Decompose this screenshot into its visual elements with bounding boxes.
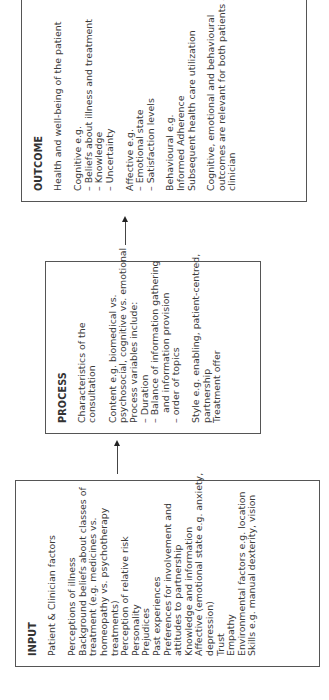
input-box: INPUT Patient & Clinician factors Percep…: [15, 480, 320, 667]
process-content: Content e.g. biomedical vs. psychosocial…: [108, 270, 182, 423]
process-box: PROCESS Characteristics of the consultat…: [45, 261, 261, 434]
diagram-canvas: INPUT Patient & Clinician factors Percep…: [0, 0, 329, 700]
arrow-process-to-outcome: [125, 218, 126, 245]
process-content-line: Process variables include:: [129, 270, 140, 423]
outcome-note-line: clinician: [227, 1, 238, 191]
outcome-behavioural-line: Subsequent health care utilization: [187, 1, 198, 191]
outcome-cognitive-line: – Uncertainty: [105, 1, 116, 191]
outcome-note: Cognitive, emotional and behavioural out…: [206, 1, 238, 191]
outcome-affective-line: – Satisfaction levels: [146, 1, 157, 191]
process-subtitle: Characteristics of the consultation: [77, 270, 98, 423]
process-content-line: – order of topics: [171, 270, 182, 423]
input-subtitle: Patient & Clinician factors: [47, 489, 58, 656]
input-factor: depression): [205, 489, 216, 656]
outcome-cognitive: Cognitive e.g. – Beliefs about illness a…: [73, 1, 115, 191]
outcome-box: OUTCOME Health and well-being of the pat…: [21, 0, 307, 202]
input-factor: homeopathy vs. psychotherapy: [99, 489, 110, 656]
outcome-subtitle: Health and well-being of the patient: [53, 1, 64, 191]
input-factor: Skills e.g. manual dexterity, vision: [247, 489, 258, 656]
outcome-behavioural: Behavioural e.g. Informed Adherence Subs…: [165, 1, 197, 191]
input-factor: Past experiences: [152, 489, 163, 656]
outcome-title: OUTCOME: [34, 1, 45, 191]
process-style-line: Treatment offer: [212, 270, 223, 423]
process-style: Style e.g. enabling, patient-centred, pa…: [191, 270, 223, 423]
arrow-input-to-process: [117, 442, 118, 474]
input-factor-list: Perceptions of illness Background belief…: [67, 489, 258, 656]
process-style-line: Style e.g. enabling, patient-centred,: [191, 270, 202, 423]
input-title: INPUT: [28, 489, 39, 656]
outcome-behavioural-line: Informed Adherence: [176, 1, 187, 191]
outcome-affective: Affective e.g. – Emotional state – Satis…: [125, 1, 157, 191]
process-title: PROCESS: [58, 270, 69, 423]
